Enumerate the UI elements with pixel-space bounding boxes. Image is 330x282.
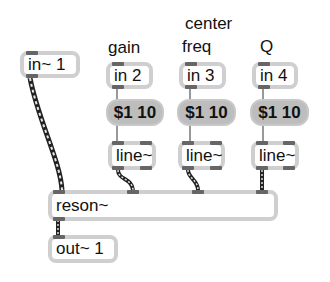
inlet-port[interactable] <box>127 190 139 194</box>
line-text: line~ <box>259 146 295 166</box>
outlet-port[interactable] <box>283 166 295 170</box>
inlet-port[interactable] <box>210 141 222 145</box>
inlet-port[interactable] <box>53 235 65 239</box>
inlet-port[interactable] <box>192 190 204 194</box>
message-text: $1 10 <box>258 103 301 123</box>
line-text: line~ <box>186 146 222 166</box>
inlet-port[interactable] <box>53 190 65 194</box>
outlet-port[interactable] <box>112 85 124 89</box>
in-3-text: in 3 <box>187 66 214 86</box>
outlet-port[interactable] <box>140 166 152 170</box>
message-box-freq[interactable]: $1 10 <box>177 99 236 126</box>
inlet-port[interactable] <box>26 51 38 55</box>
outlet-port[interactable] <box>185 85 197 89</box>
message-text: $1 10 <box>114 103 157 123</box>
inlet-port[interactable] <box>256 190 268 194</box>
inlet-port[interactable] <box>258 62 270 66</box>
inlet-port[interactable] <box>283 141 295 145</box>
freq-label: freq <box>182 38 211 56</box>
inlet-port[interactable] <box>185 62 197 66</box>
outlet-port[interactable] <box>182 166 194 170</box>
q-label: Q <box>260 38 273 56</box>
reson-text: reson~ <box>56 196 108 216</box>
inlet-port[interactable] <box>112 141 124 145</box>
in-4-text: in 4 <box>260 66 287 86</box>
line-text: line~ <box>116 146 152 166</box>
message-text: $1 10 <box>185 103 228 123</box>
out-signal-1-text: out~ 1 <box>56 239 104 259</box>
message-box-q[interactable]: $1 10 <box>250 99 309 126</box>
outlet-port[interactable] <box>26 74 38 78</box>
out-signal-1-object[interactable]: out~ 1 <box>48 235 118 263</box>
in-signal-1-text: in~ 1 <box>28 55 65 75</box>
center-label: center <box>185 15 232 33</box>
reson-object[interactable]: reson~ <box>48 190 278 221</box>
outlet-port[interactable] <box>258 85 270 89</box>
outlet-port[interactable] <box>210 166 222 170</box>
gain-label: gain <box>108 39 140 57</box>
inlet-port[interactable] <box>182 141 194 145</box>
inlet-port[interactable] <box>112 62 124 66</box>
in-2-text: in 2 <box>114 66 141 86</box>
outlet-port[interactable] <box>53 217 65 221</box>
outlet-port[interactable] <box>256 166 268 170</box>
inlet-port[interactable] <box>256 141 268 145</box>
message-box-gain[interactable]: $1 10 <box>106 99 164 126</box>
outlet-port[interactable] <box>112 166 124 170</box>
inlet-port[interactable] <box>140 141 152 145</box>
